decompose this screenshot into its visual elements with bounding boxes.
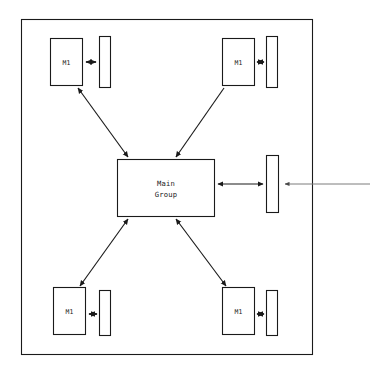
module-top-left-bar[interactable] (100, 37, 111, 88)
module-bottom-right-label: M1 (235, 308, 243, 316)
diagram-svg: M1 M1 M1 M1 Main Group (0, 0, 388, 370)
module-top-right-bar[interactable] (267, 37, 278, 88)
module-bottom-left-bar[interactable] (100, 291, 111, 336)
diagram-canvas: M1 M1 M1 M1 Main Group (0, 0, 388, 370)
main-group-label-line2: Group (155, 190, 178, 199)
module-bottom-left-label: M1 (66, 308, 74, 316)
main-group-box[interactable] (118, 160, 215, 217)
interface-bar-right[interactable] (267, 156, 279, 213)
main-group-label-line1: Main (157, 179, 175, 188)
module-bottom-right-bar[interactable] (267, 291, 278, 336)
module-top-left-label: M1 (63, 59, 71, 67)
module-top-right-label: M1 (235, 59, 243, 67)
